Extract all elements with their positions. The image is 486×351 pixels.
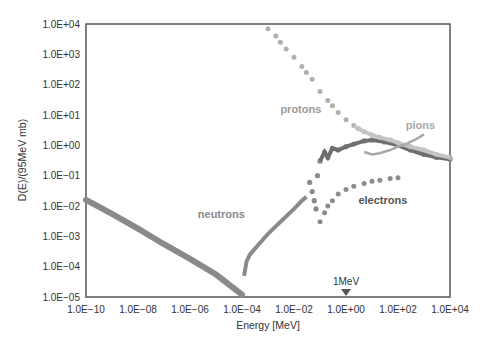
x-tick-label: 1.0E−06 bbox=[171, 304, 209, 315]
annotation-label: 1MeV bbox=[333, 276, 359, 287]
y-tick-label: 1.0E−02 bbox=[42, 201, 80, 212]
plot-frame bbox=[86, 24, 450, 297]
y-axis-label: D(E)/(95MeV mb) bbox=[16, 119, 28, 201]
label-protons: protons bbox=[280, 103, 321, 115]
label-electrons: electrons bbox=[358, 194, 407, 206]
x-tick-label: 1.0E+00 bbox=[327, 304, 365, 315]
y-tick-label: 1.0E+02 bbox=[42, 79, 80, 90]
y-tick-label: 1.0E+01 bbox=[42, 110, 80, 121]
y-tick-label: 1.0E+03 bbox=[42, 49, 80, 60]
label-pions: pions bbox=[406, 119, 435, 131]
label-neutrons: neutrons bbox=[198, 208, 245, 220]
y-tick-label: 1.0E+04 bbox=[42, 19, 80, 30]
y-tick-label: 1.0E+00 bbox=[42, 140, 80, 151]
y-tick-label: 1.0E−04 bbox=[42, 261, 80, 272]
x-tick-label: 1.0E−08 bbox=[119, 304, 157, 315]
x-axis-ticks: 1.0E−101.0E−081.0E−061.0E−041.0E−021.0E+… bbox=[67, 304, 469, 315]
y-tick-label: 1.0E−01 bbox=[42, 170, 80, 181]
x-tick-label: 1.0E+02 bbox=[379, 304, 417, 315]
x-axis-label: Energy [MeV] bbox=[236, 319, 300, 331]
chart-canvas: 1.0E+041.0E+031.0E+021.0E+011.0E+001.0E−… bbox=[0, 0, 486, 351]
x-tick-label: 1.0E−04 bbox=[223, 304, 261, 315]
x-tick-label: 1.0E−10 bbox=[67, 304, 105, 315]
y-axis-ticks: 1.0E+041.0E+031.0E+021.0E+011.0E+001.0E−… bbox=[42, 19, 80, 303]
y-tick-label: 1.0E−05 bbox=[42, 292, 80, 303]
y-tick-label: 1.0E−03 bbox=[42, 231, 80, 242]
x-tick-label: 1.0E+04 bbox=[431, 304, 469, 315]
x-tick-label: 1.0E−02 bbox=[275, 304, 313, 315]
